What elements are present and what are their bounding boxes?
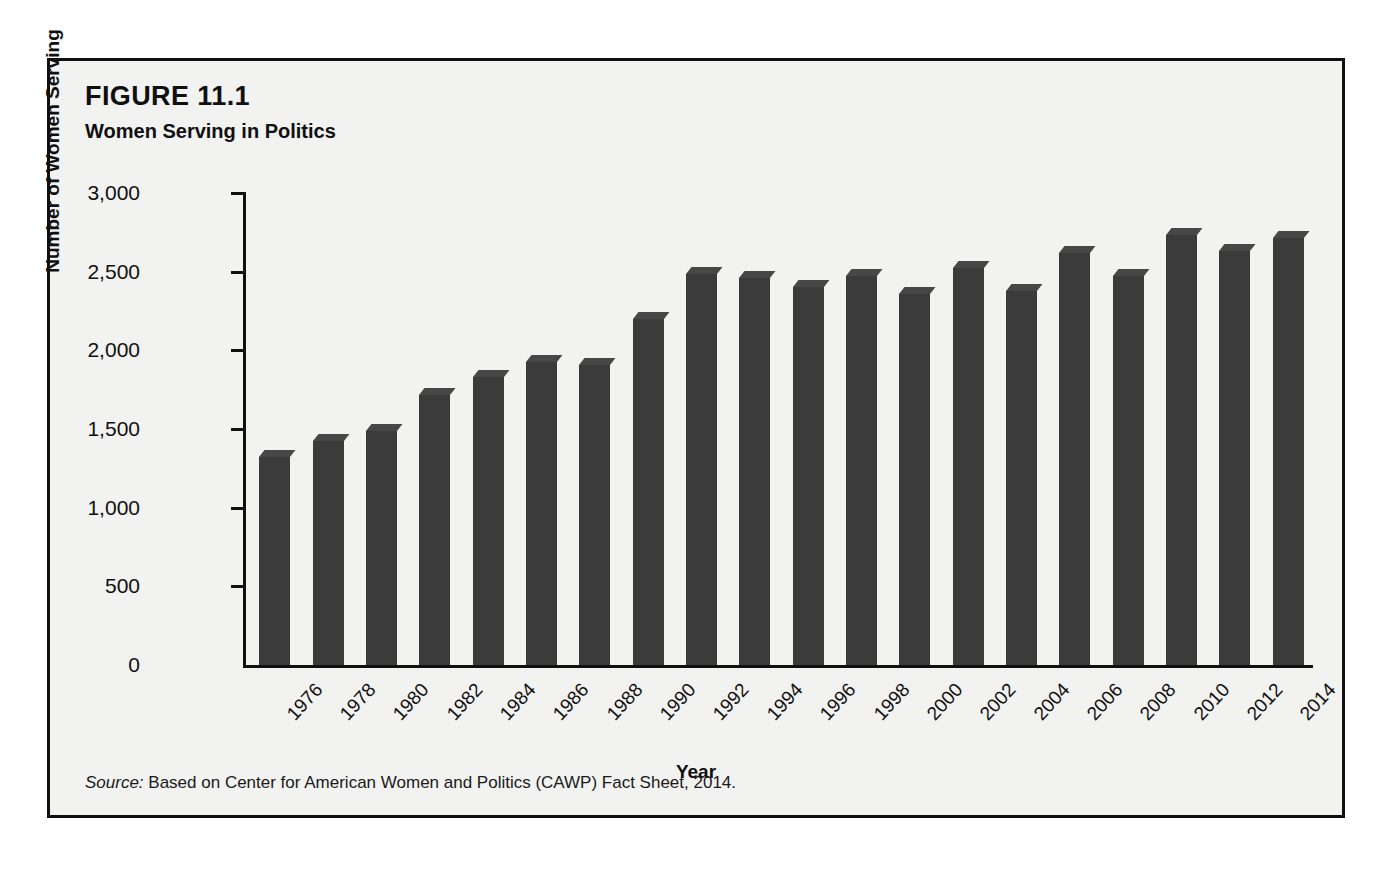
y-axis-tick — [231, 428, 246, 431]
bar — [313, 441, 344, 665]
bar — [1219, 251, 1250, 665]
source-label: Source: — [85, 773, 144, 792]
bar-top-face — [366, 424, 402, 431]
chart-plot-area: Number of Women Serving 05001,0001,5002,… — [50, 61, 1342, 815]
y-axis-tick — [231, 507, 246, 510]
bar — [793, 287, 824, 665]
bar-top-face — [259, 450, 295, 457]
bar-top-face — [1219, 244, 1255, 251]
x-axis-tick-label: 2006 — [1082, 679, 1127, 725]
bar-top-face — [1059, 246, 1095, 253]
bar — [1273, 238, 1304, 665]
y-axis-tick-label: 1,000 — [87, 496, 140, 520]
bar-top-face — [686, 267, 722, 274]
source-note: Source: Based on Center for American Wom… — [85, 773, 736, 793]
x-axis-tick-label: 2012 — [1242, 679, 1287, 725]
x-axis-tick-label: 1982 — [442, 679, 487, 725]
y-axis-tick-label: 2,000 — [87, 338, 140, 362]
y-axis-title: Number of Women Serving — [42, 0, 64, 361]
bar-top-face — [473, 370, 509, 377]
x-axis-tick-label: 2000 — [922, 679, 967, 725]
source-text: Based on Center for American Women and P… — [144, 773, 736, 792]
y-axis-tick-label: 500 — [105, 574, 140, 598]
bar-top-face — [526, 355, 562, 362]
bar — [579, 365, 610, 666]
y-axis-tick — [231, 349, 246, 352]
x-axis-tick-label: 1996 — [816, 679, 861, 725]
bar-top-face — [1113, 269, 1149, 276]
x-axis-tick-label: 2014 — [1296, 679, 1341, 725]
y-axis-tick — [231, 585, 246, 588]
figure-panel: FIGURE 11.1 Women Serving in Politics Nu… — [47, 58, 1345, 818]
y-axis-tick — [231, 192, 246, 195]
x-axis-line — [243, 665, 1313, 668]
bar — [526, 362, 557, 665]
bar — [259, 457, 290, 665]
bar — [846, 276, 877, 665]
x-axis-tick-label: 1984 — [496, 679, 541, 725]
x-axis-tick-label: 1976 — [282, 679, 327, 725]
bar — [366, 431, 397, 665]
x-axis-tick-label: 1980 — [389, 679, 434, 725]
x-axis-tick-label: 1992 — [709, 679, 754, 725]
x-axis-tick-label: 2002 — [976, 679, 1021, 725]
bar — [899, 294, 930, 665]
bar-top-face — [846, 269, 882, 276]
x-axis-tick-label: 2008 — [1136, 679, 1181, 725]
bar-top-face — [953, 261, 989, 268]
bar — [739, 278, 770, 665]
bar — [1006, 291, 1037, 665]
x-axis-tick-label: 1978 — [335, 679, 380, 725]
bar-top-face — [419, 388, 455, 395]
x-axis-tick-label: 1986 — [549, 679, 594, 725]
x-axis-tick-label: 1990 — [656, 679, 701, 725]
x-axis-tick-label: 1998 — [869, 679, 914, 725]
bar — [1059, 253, 1090, 665]
bar-top-face — [1166, 228, 1202, 235]
y-axis-tick-label: 1,500 — [87, 417, 140, 441]
y-axis-tick-label: 2,500 — [87, 260, 140, 284]
y-axis-tick-label: 3,000 — [87, 181, 140, 205]
bar — [1166, 235, 1197, 665]
bar-top-face — [313, 434, 349, 441]
bar-top-face — [1006, 284, 1042, 291]
bar-top-face — [739, 271, 775, 278]
bar — [686, 274, 717, 665]
bar — [1113, 276, 1144, 665]
bar — [633, 319, 664, 665]
bar-top-face — [579, 358, 615, 365]
bar — [473, 377, 504, 665]
bar-top-face — [793, 280, 829, 287]
x-axis-tick-label: 2010 — [1189, 679, 1234, 725]
bar-top-face — [899, 287, 935, 294]
bar-top-face — [1273, 231, 1309, 238]
bar-series — [246, 193, 1313, 665]
bar-top-face — [633, 312, 669, 319]
y-axis-tick — [231, 271, 246, 274]
y-axis-tick-label: 0 — [128, 653, 140, 677]
x-axis-tick-label: 1994 — [762, 679, 807, 725]
x-axis-tick-label: 2004 — [1029, 679, 1074, 725]
bar — [953, 268, 984, 665]
bar — [419, 395, 450, 665]
x-axis-tick-labels: 1976197819801982198419861988199019921994… — [246, 679, 1313, 759]
x-axis-tick-label: 1988 — [602, 679, 647, 725]
